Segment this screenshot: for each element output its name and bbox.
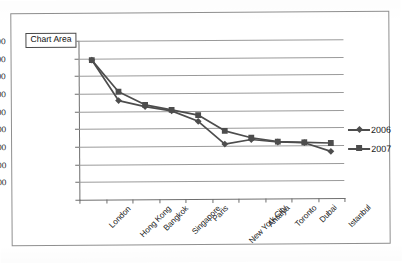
- y-axis-label: 6,000.00: [0, 142, 6, 152]
- data-point-2007: [116, 89, 122, 95]
- y-axis-label: 4,000.00: [0, 160, 6, 170]
- y-axis-label: 8,000.00: [0, 125, 6, 135]
- x-axis-tick: [344, 198, 345, 202]
- y-axis-label: 2,000.00: [0, 178, 6, 188]
- scanned-chart-page: 18,000.0016,000.0014,000.0012,000.0010,0…: [0, 0, 402, 263]
- data-series-layer: [78, 39, 344, 201]
- y-axis-label: 10,000.00: [0, 107, 6, 117]
- legend-marker-square-icon: [348, 143, 370, 153]
- data-point-2007: [142, 102, 148, 108]
- data-point-2007: [89, 57, 95, 63]
- chart-area-tooltip: Chart Area: [25, 33, 76, 48]
- x-axis-label: Dubai: [318, 203, 339, 224]
- data-point-2007: [222, 128, 228, 134]
- plot-area: 18,000.0016,000.0014,000.0012,000.0010,0…: [78, 39, 344, 200]
- legend-label: 2006: [371, 124, 391, 134]
- x-axis-label: Istanbul: [346, 203, 372, 229]
- data-point-2007: [301, 139, 307, 145]
- legend-marker-diamond-icon: [348, 124, 370, 134]
- y-axis-label: 18,000.00: [0, 36, 5, 46]
- legend-label: 2007: [371, 143, 391, 153]
- series-line-2006: [92, 59, 331, 153]
- data-point-2007: [275, 139, 281, 145]
- chart-legend: 20062007: [348, 120, 404, 158]
- data-point-2007: [195, 112, 201, 118]
- legend-entry-2006: 2006: [348, 120, 404, 139]
- y-axis-label: 16,000.00: [0, 54, 6, 64]
- x-axis-label: London: [108, 204, 133, 229]
- data-point-2007: [328, 140, 334, 146]
- y-axis-label: 14,000.00: [0, 72, 6, 82]
- y-axis-label: 12,000.00: [0, 89, 6, 99]
- legend-entry-2007: 2007: [348, 139, 404, 158]
- data-point-2006: [327, 148, 334, 155]
- data-point-2007: [169, 107, 175, 113]
- data-point-2007: [248, 135, 254, 141]
- x-axis-label: Toronto: [293, 203, 318, 228]
